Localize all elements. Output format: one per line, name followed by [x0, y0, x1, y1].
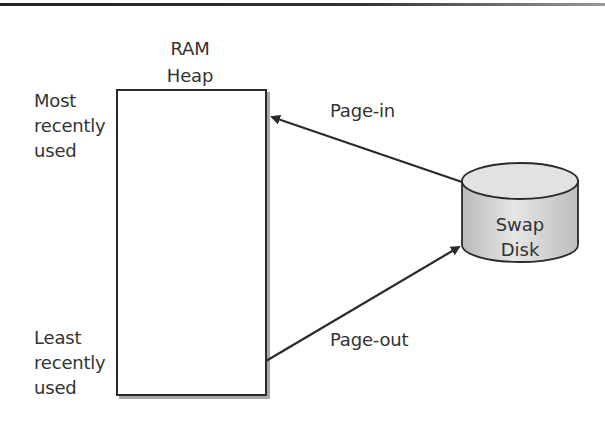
page-in-label: Page-in [330, 98, 395, 123]
swap-disk-label: Swap Disk [462, 212, 578, 262]
page-out-label: Page-out [330, 327, 408, 352]
swap-disk-label-line2: Disk [462, 237, 578, 262]
swap-disk-label-line1: Swap [462, 212, 578, 237]
page-in-arrow [272, 117, 462, 182]
